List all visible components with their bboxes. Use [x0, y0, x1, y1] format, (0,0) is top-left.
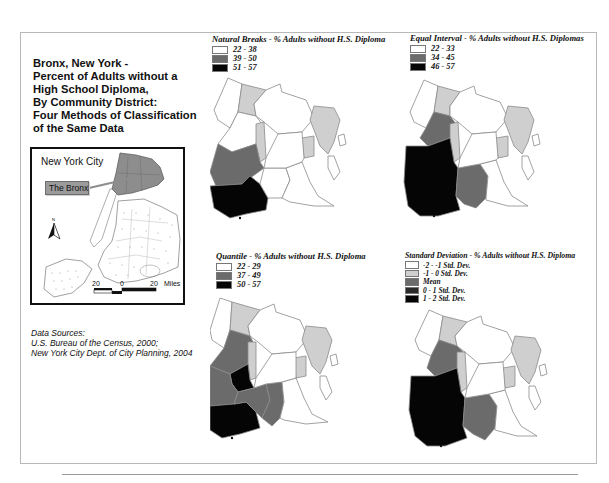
legend-swatch	[216, 263, 232, 271]
source-line: U.S. Bureau of the Census, 2000;	[31, 338, 192, 348]
north-arrow-icon: N	[48, 217, 60, 239]
legend-title: Standard Deviation - % Adults without H.…	[405, 251, 575, 260]
scale-center-value: 0	[120, 280, 124, 287]
legend-label: 34 - 45	[431, 53, 455, 62]
scale-left-value: 20	[92, 280, 100, 287]
legend-swatch	[405, 287, 419, 295]
legend-title: Quantile - % Adults without H.S. Diploma	[216, 251, 366, 261]
choropleth-equal-interval	[398, 72, 558, 226]
legend-label: 1 - 2 Std. Dev.	[423, 294, 465, 303]
title-line: of the Same Data	[33, 122, 208, 135]
title-line: By Community District:	[33, 96, 208, 109]
district	[456, 164, 488, 208]
legend-entry: 39 - 50	[212, 54, 385, 63]
legend-natural-breaks: Natural Breaks - % Adults without H.S. D…	[212, 34, 385, 72]
district	[264, 132, 304, 168]
legend-swatch	[212, 55, 228, 63]
legend-swatch	[405, 278, 419, 286]
legend-swatch	[405, 295, 419, 303]
legend-quantile: Quantile - % Adults without H.S. Diploma…	[216, 251, 366, 289]
scale-labels: 20 0 20 Miles	[92, 280, 182, 290]
legend-label: 46 - 57	[431, 62, 455, 71]
choropleth-standard-deviation	[405, 306, 565, 460]
legend-entry: 22 - 29	[216, 262, 366, 271]
nyc-locator-inset: N New York City The Bronx 20 0 20 Miles	[30, 147, 185, 305]
legend-swatch	[410, 54, 426, 62]
bronx-callout-label: The Bronx	[45, 181, 89, 195]
legend-entry: 37 - 49	[216, 271, 366, 280]
legend-entry: 50 - 57	[216, 280, 366, 289]
legend-swatch	[212, 46, 228, 54]
legend-entry: 1 - 2 Std. Dev.	[405, 295, 575, 303]
source-line: New York City Dept. of City Planning, 20…	[31, 348, 192, 358]
district	[480, 160, 528, 206]
title-line: Four Methods of Classification	[33, 109, 208, 122]
title-line: Bronx, New York -	[33, 57, 208, 70]
legend-label: 22 - 29	[237, 262, 261, 271]
legend-label: 50 - 57	[237, 280, 261, 289]
district	[511, 336, 541, 384]
legend-swatch	[405, 261, 419, 269]
scale-right-value: 20	[150, 280, 158, 287]
title-line: Percent of Adults without a	[33, 70, 208, 83]
legend-swatch	[216, 281, 232, 289]
legend-swatch	[216, 272, 232, 280]
legend-entry: 22 - 38	[212, 45, 385, 54]
legend-title: Equal Interval - % Adults without H.S. D…	[410, 33, 584, 43]
legend-label: 22 - 33	[431, 44, 455, 53]
legend-entry: 46 - 57	[410, 62, 584, 71]
legend-label: 22 - 38	[233, 45, 257, 54]
district	[310, 106, 340, 154]
scale-unit: Miles	[164, 280, 180, 287]
legend-equal-interval: Equal Interval - % Adults without H.S. D…	[410, 33, 584, 71]
bottom-rule	[62, 474, 578, 475]
legend-label: 37 - 49	[237, 271, 261, 280]
choropleth-natural-breaks	[210, 72, 370, 226]
legend-swatch	[410, 45, 426, 53]
legend-entry: 34 - 45	[410, 53, 584, 62]
district	[409, 368, 467, 446]
legend-label: 39 - 50	[233, 54, 257, 63]
district	[504, 106, 534, 154]
inset-title: New York City	[41, 156, 103, 167]
choropleth-quantile	[210, 292, 370, 446]
legend-swatch	[410, 63, 426, 71]
district	[463, 394, 497, 440]
legend-swatch	[405, 270, 419, 278]
district	[404, 138, 460, 216]
district	[282, 162, 334, 206]
page-title: Bronx, New York - Percent of Adults with…	[33, 57, 208, 135]
legend-standard-deviation: Standard Deviation - % Adults without H.…	[405, 251, 575, 303]
legend-label: 51 - 57	[233, 63, 257, 72]
data-sources: Data Sources: U.S. Bureau of the Census,…	[31, 328, 192, 358]
legend-title: Natural Breaks - % Adults without H.S. D…	[212, 34, 385, 44]
svg-text:N: N	[52, 217, 55, 222]
district	[210, 144, 264, 186]
legend-entry: 22 - 33	[410, 44, 584, 53]
district	[302, 326, 332, 374]
legend-entry: 51 - 57	[212, 63, 385, 72]
sources-heading: Data Sources:	[31, 328, 192, 338]
district	[450, 86, 508, 134]
title-line: High School Diploma,	[33, 83, 208, 96]
legend-swatch	[212, 64, 228, 72]
